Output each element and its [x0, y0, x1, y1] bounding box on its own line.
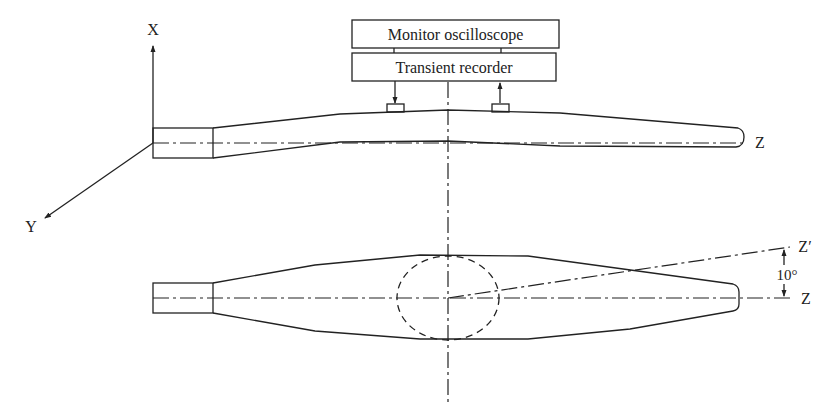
monitor-oscilloscope-box: Monitor oscilloscope	[352, 20, 559, 48]
z-prime-label: Z′	[798, 238, 811, 255]
blade-test-diagram: Monitor oscilloscope Transient recorder …	[0, 0, 829, 405]
y-axis-arrow	[45, 143, 153, 218]
angle-label: 10°	[777, 267, 798, 283]
transient-recorder-label: Transient recorder	[395, 59, 513, 76]
sensor-left	[387, 104, 404, 112]
x-axis-label: X	[147, 21, 159, 38]
monitor-oscilloscope-label: Monitor oscilloscope	[388, 26, 524, 44]
transient-recorder-box: Transient recorder	[352, 53, 556, 81]
y-axis-label: Y	[25, 218, 37, 235]
top-view-blade	[153, 247, 790, 340]
z-axis-label-bottom: Z	[801, 290, 811, 307]
z-axis-label-top: Z	[755, 134, 765, 151]
